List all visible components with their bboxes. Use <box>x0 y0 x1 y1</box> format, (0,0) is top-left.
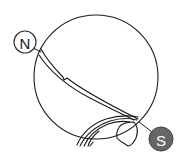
region-circle <box>34 15 158 139</box>
south-pole-label: S <box>156 132 166 149</box>
south-connector-line <box>139 122 152 132</box>
north-pole-marker: N <box>14 31 36 53</box>
diagram-canvas: N S <box>0 0 182 160</box>
north-pole-label: N <box>20 35 31 52</box>
hand-icon <box>77 116 138 146</box>
strip-upper-edge <box>41 49 138 119</box>
south-pole-marker: S <box>149 127 173 151</box>
